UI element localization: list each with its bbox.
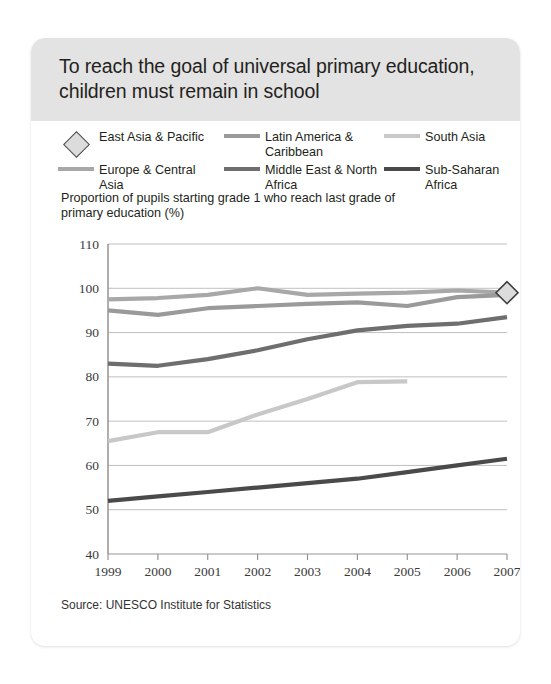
x-axis-tick-label: 2002 [244, 564, 271, 579]
diamond-marker [496, 282, 518, 304]
legend-label: Latin America & Caribbean [265, 130, 379, 159]
series-line-south-asia [108, 381, 407, 441]
chart-legend: East Asia & Pacific Latin America & Cari… [53, 130, 503, 192]
line-chart-svg: 4050607080901001101999200020012002200320… [31, 224, 520, 584]
line-swatch-icon [219, 130, 265, 138]
card-header: To reach the goal of universal primary e… [31, 38, 520, 121]
chart-source: Source: UNESCO Institute for Statistics [61, 598, 271, 612]
line-swatch-icon [219, 163, 265, 171]
y-axis-tick-label: 100 [79, 281, 100, 296]
legend-item-latin-america-caribbean[interactable]: Latin America & Caribbean [219, 130, 379, 159]
legend-label: Europe & Central Asia [99, 163, 219, 192]
x-axis-tick-label: 2000 [144, 564, 171, 579]
chart-plot-area: 4050607080901001101999200020012002200320… [31, 224, 520, 584]
line-swatch-icon [379, 130, 425, 138]
chart-title: To reach the goal of universal primary e… [59, 54, 499, 104]
y-axis-tick-label: 70 [86, 414, 100, 429]
line-swatch-icon [53, 163, 99, 171]
legend-label: East Asia & Pacific [99, 130, 204, 145]
y-axis-tick-label: 40 [86, 547, 100, 562]
chart-page: To reach the goal of universal primary e… [0, 0, 551, 684]
x-axis-tick-label: 1999 [95, 564, 122, 579]
x-axis-tick-label: 2001 [194, 564, 221, 579]
y-axis-tick-label: 50 [86, 502, 100, 517]
y-axis-tick-label: 60 [86, 458, 100, 473]
series-line-middle-east-north-africa [108, 317, 507, 366]
x-axis-tick-label: 2003 [294, 564, 321, 579]
legend-label: Sub-Saharan Africa [425, 163, 503, 192]
legend-label: South Asia [425, 130, 485, 145]
chart-subtitle: Proportion of pupils starting grade 1 wh… [61, 191, 431, 221]
y-axis-tick-label: 80 [86, 369, 100, 384]
legend-item-south-asia[interactable]: South Asia [379, 130, 503, 159]
x-axis-tick-label: 2007 [494, 564, 521, 579]
x-axis-tick-label: 2005 [394, 564, 421, 579]
chart-card: To reach the goal of universal primary e… [31, 38, 520, 646]
diamond-marker-icon [53, 130, 99, 154]
y-axis-tick-label: 110 [79, 237, 99, 252]
legend-item-sub-saharan-africa[interactable]: Sub-Saharan Africa [379, 163, 503, 192]
x-axis-tick-label: 2004 [344, 564, 371, 579]
legend-label: Middle East & North Africa [265, 163, 379, 192]
legend-item-east-asia-pacific[interactable]: East Asia & Pacific [53, 130, 219, 159]
legend-item-europe-central-asia[interactable]: Europe & Central Asia [53, 163, 219, 192]
y-axis-tick-label: 90 [86, 325, 100, 340]
line-swatch-icon [379, 163, 425, 171]
x-axis-tick-label: 2006 [444, 564, 471, 579]
legend-item-middle-east-north-africa[interactable]: Middle East & North Africa [219, 163, 379, 192]
